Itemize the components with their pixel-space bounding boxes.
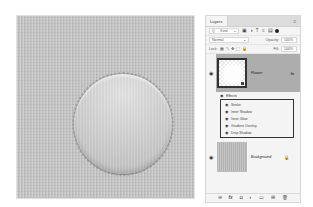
eye-icon[interactable]: ◉ [225, 123, 228, 128]
eye-icon: ◉ [209, 155, 213, 160]
kind-label: Kind [220, 29, 227, 33]
eye-icon[interactable]: ◉ [225, 102, 228, 107]
eye-icon[interactable]: ◉ [225, 109, 228, 114]
layer-row-flower[interactable]: ◉ Flower fx [206, 54, 300, 92]
lock-artboard-icon[interactable]: ⬚ [236, 47, 240, 51]
filter-row: Q Kind ⌄ ▣ ◑ T ⌗ ▤ [206, 27, 300, 36]
link-layers-icon[interactable]: ⊖ [218, 196, 222, 201]
add-layer-style-icon[interactable]: fx [229, 196, 233, 201]
chevron-down-icon: ⌄ [243, 38, 246, 42]
document-canvas[interactable] [16, 15, 195, 199]
opacity-label: Opacity: [266, 38, 279, 42]
opacity-input[interactable]: 100% [281, 37, 297, 43]
lock-transparent-icon[interactable]: ▦ [220, 47, 224, 51]
flower-shape[interactable] [74, 74, 172, 174]
new-group-icon[interactable]: ▭ [259, 196, 264, 201]
eye-icon[interactable]: ◉ [220, 93, 223, 98]
effect-inner-shadow[interactable]: ◉ Inner Shadow [221, 108, 293, 115]
layer-row-background[interactable]: ◉ Background 🔒 [206, 139, 300, 175]
add-mask-icon[interactable]: ◘ [240, 196, 243, 201]
effect-gradient-overlay[interactable]: ◉ Gradient Overlay [221, 122, 293, 129]
effect-inner-glow[interactable]: ◉ Inner Glow [221, 115, 293, 122]
tab-layers[interactable]: Layers [206, 16, 228, 26]
effect-label: Inner Shadow [231, 110, 252, 114]
lock-row: Lock: ▦ ✎ ✥ ⬚ 🔒 Fill: 100% [206, 45, 300, 54]
filter-kind-select[interactable]: Q Kind ⌄ [209, 28, 239, 34]
eye-icon[interactable]: ◉ [225, 130, 228, 135]
filter-pixel-icon[interactable]: ▣ [242, 29, 247, 34]
layer-name[interactable]: Flower [251, 71, 262, 75]
thumbnail-shape [224, 65, 241, 82]
effect-label: Drop Shadow [231, 131, 252, 135]
effects-label: Effects [226, 94, 237, 98]
filter-shape-icon[interactable]: ⌗ [262, 29, 265, 34]
layers-panel: Layers ≡ Q Kind ⌄ ▣ ◑ T ⌗ ▤ Normal ⌄ Opa… [205, 15, 301, 203]
visibility-toggle[interactable]: ◉ [206, 54, 216, 92]
layer-thumbnail[interactable] [217, 58, 247, 88]
layer-thumbnail[interactable] [217, 142, 247, 172]
eye-icon[interactable]: ◉ [225, 116, 228, 121]
effect-label: Inner Glow [231, 117, 247, 121]
lock-icon[interactable]: 🔒 [284, 155, 290, 160]
blend-row: Normal ⌄ Opacity: 100% [206, 36, 300, 45]
effects-group-header[interactable]: ◉ Effects [206, 92, 300, 99]
new-layer-icon[interactable]: ⊞ [271, 196, 275, 201]
filter-type-icon[interactable]: T [256, 29, 259, 34]
blend-mode-value: Normal [212, 38, 224, 42]
opacity-value: 100% [284, 38, 293, 42]
fill-label: Fill: [273, 47, 279, 51]
smart-object-badge-icon [240, 81, 245, 86]
panel-menu-icon[interactable]: ≡ [290, 16, 300, 26]
lock-image-icon[interactable]: ✎ [226, 47, 229, 51]
effect-label: Gradient Overlay [231, 124, 257, 128]
lock-position-icon[interactable]: ✥ [231, 47, 234, 51]
visibility-toggle[interactable]: ◉ [206, 139, 216, 175]
lock-label: Lock: [209, 47, 218, 51]
fill-value: 100% [284, 47, 293, 51]
lock-all-icon[interactable]: 🔒 [242, 47, 247, 51]
effect-label: Stroke [231, 103, 241, 107]
fill-input[interactable]: 100% [281, 46, 297, 52]
trash-icon[interactable]: 🗑 [282, 196, 288, 201]
chevron-down-icon: ⌄ [233, 29, 236, 33]
filter-toggle-icon[interactable] [275, 29, 279, 33]
effects-list: ◉ Stroke ◉ Inner Shadow ◉ Inner Glow ◉ G… [220, 99, 294, 138]
effect-stroke[interactable]: ◉ Stroke [221, 101, 293, 108]
eye-icon: ◉ [209, 71, 213, 76]
effect-drop-shadow[interactable]: ◉ Drop Shadow [221, 129, 293, 136]
fx-icon[interactable]: fx [290, 71, 294, 76]
search-icon: Q [212, 29, 215, 33]
filter-adjustment-icon[interactable]: ◑ [250, 29, 253, 34]
blend-mode-select[interactable]: Normal ⌄ [209, 37, 249, 43]
panel-header: Layers ≡ [206, 16, 300, 27]
adjustment-layer-icon[interactable]: ◐ [250, 196, 253, 201]
layer-name[interactable]: Background [251, 155, 271, 159]
panel-footer-toolbar: ⊖ fx ◘ ◐ ▭ ⊞ 🗑 [206, 193, 300, 202]
filter-smart-object-icon[interactable]: ▤ [268, 29, 273, 34]
